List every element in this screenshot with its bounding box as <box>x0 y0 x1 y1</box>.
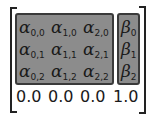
beta-cell-1: β1 <box>121 41 137 60</box>
alpha-cell-2-0: α2,0 <box>83 19 109 38</box>
alpha-cell-1-0: α1,0 <box>51 19 77 38</box>
alpha-cell-0-0: α0,0 <box>19 19 45 38</box>
alpha-cell-2-1: α2,1 <box>83 41 109 60</box>
alpha-cell-1-1: α1,1 <box>51 41 77 60</box>
alpha-cell-0-2: α0,2 <box>19 63 45 82</box>
bottom-row-value-0: 0.0 <box>16 89 41 105</box>
alpha-cell-2-2: α2,2 <box>83 63 109 82</box>
alpha-cell-1-2: α1,2 <box>51 63 77 82</box>
bottom-row-value-3: 1.0 <box>113 89 138 105</box>
alpha-cell-0-1: α0,1 <box>19 41 45 60</box>
bottom-row-value-2: 0.0 <box>80 89 105 105</box>
right-bracket <box>139 6 146 114</box>
beta-cell-2: β2 <box>121 63 137 82</box>
bottom-row-value-1: 0.0 <box>48 89 73 105</box>
beta-cell-0: β0 <box>121 19 137 38</box>
